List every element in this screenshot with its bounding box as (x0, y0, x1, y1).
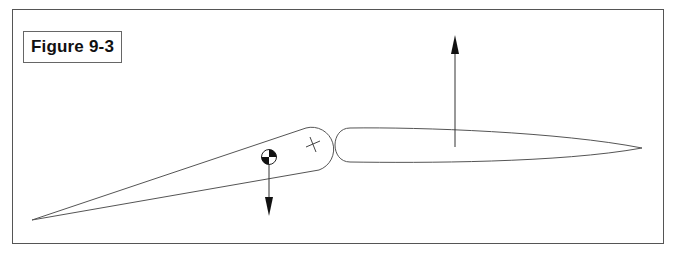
hinge-point-icon (306, 137, 320, 152)
diagram-canvas (0, 0, 674, 254)
control-surface (32, 127, 334, 220)
weight-arrow-icon (265, 164, 273, 216)
center-of-gravity-icon (262, 150, 277, 165)
fixed-surface (335, 128, 642, 162)
